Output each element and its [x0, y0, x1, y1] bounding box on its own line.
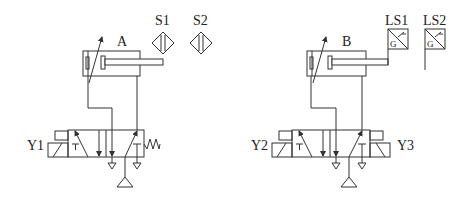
sensor-s1: S1	[152, 13, 174, 54]
svg-text:G: G	[427, 39, 434, 49]
limit-switch-ls1: LS1 G	[385, 13, 408, 65]
exhaust-icon	[332, 163, 340, 169]
cylinder-a: A	[83, 34, 163, 83]
valve-label-y1: Y1	[27, 138, 44, 153]
piping-a	[88, 76, 137, 130]
exhaust-icon	[133, 163, 141, 169]
piping-b	[311, 76, 362, 130]
sensor-s2: S2	[190, 13, 212, 54]
pneumatic-diagram: A S1 S2	[0, 0, 473, 201]
pressure-source-icon	[117, 177, 133, 187]
sensor-label-s1: S1	[155, 13, 170, 28]
manual-override-icon	[370, 131, 383, 140]
proximity-sensor-icon	[152, 32, 174, 54]
sensor-label-s2: S2	[193, 13, 208, 28]
cylinder-b: B	[307, 34, 388, 83]
pressure-source-icon	[341, 177, 357, 187]
circuit-b: B LS1 G LS2 G	[251, 13, 446, 187]
valve-y1: Y1	[27, 130, 160, 187]
sensor-label-ls1: LS1	[385, 13, 408, 28]
valve-label-y3: Y3	[397, 138, 414, 153]
exhaust-icon	[358, 163, 366, 169]
cylinder-label-b: B	[342, 34, 351, 49]
limit-switch-ls2: LS2 G	[423, 13, 446, 70]
cylinder-label-a: A	[117, 34, 128, 49]
manual-override-icon	[55, 131, 68, 140]
circuit-a: A S1 S2	[27, 13, 212, 187]
valve-y2-y3: Y2 Y3	[251, 130, 414, 187]
manual-override-icon	[279, 131, 292, 140]
svg-text:G: G	[390, 39, 397, 49]
valve-label-y2: Y2	[251, 138, 268, 153]
proximity-sensor-icon	[190, 32, 212, 54]
exhaust-icon	[108, 163, 116, 169]
sensor-label-ls2: LS2	[423, 13, 446, 28]
spring-icon	[144, 139, 160, 149]
